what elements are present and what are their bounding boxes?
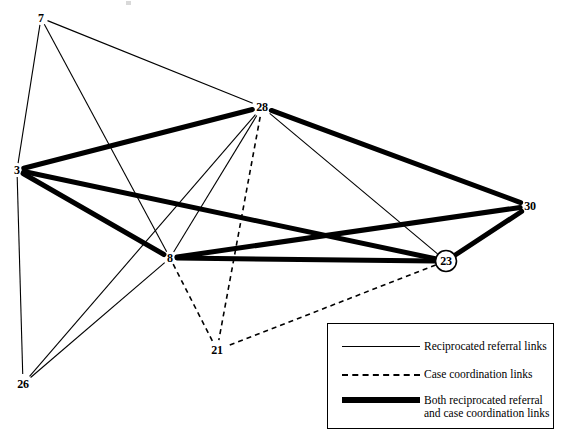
legend-label: Reciprocated referral links (424, 340, 547, 353)
edge-28-8 (174, 116, 257, 252)
edge-7-28 (47, 21, 252, 104)
legend: Reciprocated referral links Case coordin… (327, 323, 554, 429)
edge-8-23 (177, 258, 435, 261)
node-label-3: 3 (14, 164, 20, 176)
edge-3-26 (17, 177, 23, 374)
edge-3-23 (24, 171, 435, 258)
legend-item-reciprocated-referral: Reciprocated referral links (342, 340, 547, 354)
legend-label: Both reciprocated referral and case coor… (424, 394, 552, 420)
node-label-7: 7 (38, 12, 44, 24)
edge-28-30 (271, 110, 520, 202)
edge-23-30 (455, 211, 521, 254)
node-label-23: 23 (440, 255, 452, 267)
edge-26-8 (31, 263, 165, 378)
edge-8-21 (173, 264, 212, 341)
legend-swatch-thick-line (342, 394, 420, 408)
edge-26-28 (30, 115, 256, 377)
node-label-28: 28 (256, 101, 268, 113)
edge-3-28 (24, 109, 253, 168)
legend-label: Case coordination links (424, 368, 533, 381)
network-diagram-figure: 7283308232126 Reciprocated referral link… (0, 0, 562, 435)
node-label-8: 8 (167, 252, 173, 264)
edge-7-3 (18, 25, 40, 163)
node-label-26: 26 (17, 378, 29, 390)
legend-item-case-coordination: Case coordination links (342, 368, 533, 382)
legend-item-both-links: Both reciprocated referral and case coor… (342, 394, 552, 420)
node-label-21: 21 (211, 344, 223, 356)
legend-swatch-thin-line (342, 340, 420, 354)
legend-swatch-dashed-line (342, 368, 420, 382)
node-label-30: 30 (524, 200, 536, 212)
